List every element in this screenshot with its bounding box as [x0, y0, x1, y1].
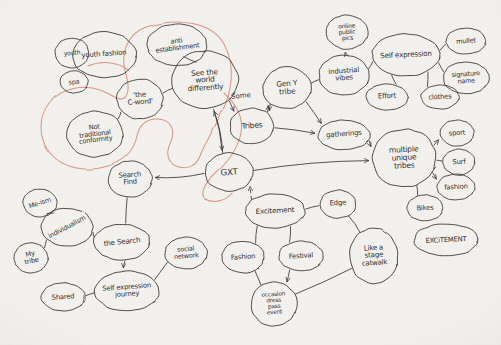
- edge-multiple_tribes-to-fashion_r: [433, 173, 437, 179]
- node-circle-individualism: [41, 208, 93, 246]
- dashed-edge-excitement_c-to-gxt: [250, 187, 251, 200]
- node-circle-social_network: [165, 237, 208, 269]
- node-circle-bikes: [407, 195, 443, 221]
- orange-small-arc: [88, 63, 128, 70]
- node-circle-search_find: [108, 161, 152, 197]
- node-circle-like_a_stage: [350, 228, 398, 284]
- edge-industrial_vibes-to-self_expression: [369, 62, 373, 69]
- edge-the_c_word-to-not_traditional: [118, 112, 121, 119]
- edge-multiple_tribes-to-sport: [434, 140, 439, 145]
- edge-gen_y_tribe-to-gatherings: [306, 102, 321, 123]
- edge-gen_y_tribe-to-industrial_vibes: [311, 80, 318, 83]
- node-circle-the_c_word: [116, 79, 163, 119]
- node-circle-effort: [366, 84, 408, 110]
- edge-anti_establishment-to-see_world: [184, 57, 197, 63]
- node-circle-fashion_r: [437, 174, 475, 200]
- edge-tribes-to-gen_y_tribe: [268, 106, 269, 112]
- ink-layer: [0, 0, 501, 345]
- edge-festival-to-occasion: [287, 270, 290, 282]
- node-circle-gatherings: [318, 120, 370, 150]
- node-circle-signature_name: [444, 62, 490, 94]
- edge-industrial_vibes-to-online_public_pics: [345, 53, 346, 55]
- node-circle-mullet: [446, 28, 486, 54]
- node-circle-see_world: [172, 51, 239, 109]
- node-circle-clothes: [421, 85, 460, 109]
- node-circle-sport: [440, 120, 474, 146]
- edge-individualism-to-the_search: [93, 232, 94, 237]
- orange-tail: [205, 193, 232, 201]
- node-circle-online_public_pics: [326, 15, 368, 49]
- edge-self_expression-to-clothes: [427, 72, 428, 87]
- node-circle-my_tribe: [14, 243, 48, 273]
- edge-edge-to-like_a_stage: [349, 216, 360, 232]
- node-circle-the_search: [93, 224, 149, 260]
- node-circle-gen_y_tribe: [263, 67, 312, 109]
- node-circle-self_expr_journey: [94, 271, 159, 311]
- node-circle-industrial_vibes: [319, 55, 369, 95]
- edge-self_expression-to-effort: [392, 75, 397, 84]
- node-circle-surf: [443, 149, 475, 175]
- edge-like_a_stage-to-occasion: [296, 269, 352, 295]
- edge-self_expression-to-signature_name: [439, 63, 444, 72]
- mindmap-canvas: youth fashionyouthspaanti establishmentS…: [0, 0, 501, 345]
- edge-gen_y_tribe-to-tribes: [269, 104, 270, 110]
- edge-gxt-to-search_find: [155, 173, 204, 177]
- edge-gatherings-to-multiple_tribes: [369, 141, 371, 147]
- edge-social_network-to-self_expr_journey: [155, 262, 168, 279]
- node-circle-occasion: [251, 282, 297, 326]
- node-circle-anti_establishment: [147, 24, 207, 66]
- edges-group: [45, 44, 446, 295]
- orange-highlight-group: [41, 22, 242, 201]
- node-circle-excitement_r: [414, 224, 478, 256]
- edge-excitement_c-to-edge: [306, 206, 319, 209]
- node-circle-excitement_c: [245, 194, 305, 228]
- node-circle-youth_fashion: [73, 31, 137, 77]
- edge-fashion_b-to-occasion: [255, 271, 261, 285]
- node-circle-spa: [60, 71, 88, 93]
- edge-multiple_tribes-to-surf: [437, 160, 442, 161]
- edge-the_c_word-to-see_world: [163, 88, 172, 93]
- edge-the_search-to-self_expr_journey: [123, 261, 125, 268]
- node-circle-not_traditional: [67, 111, 124, 157]
- edge-excitement_c-to-fashion_b: [256, 226, 258, 243]
- edge-tribes-to-gatherings: [275, 128, 315, 133]
- node-circle-edge: [320, 190, 355, 219]
- edge-excitement_c-to-festival: [290, 227, 291, 243]
- node-circle-shared: [41, 283, 85, 311]
- node-circle-self_expression: [372, 34, 440, 76]
- edge-gxt-to-multiple_tribes: [254, 161, 369, 171]
- node-circle-small_left: [55, 38, 89, 68]
- edge-search_find-to-the_search: [126, 198, 127, 223]
- node-circle-festival: [279, 241, 323, 271]
- edge-self_expression-to-mullet: [440, 44, 445, 50]
- node-circle-multiple_tribes: [372, 129, 436, 187]
- edge-multiple_tribes-to-bikes: [417, 186, 418, 195]
- nodes-group: [14, 15, 489, 326]
- edge-individualism-to-my_tribe: [45, 240, 47, 248]
- node-circle-tribes: [230, 108, 273, 144]
- node-circle-fashion_b: [222, 241, 264, 273]
- orange-loop-main: [41, 22, 231, 169]
- edge-shared-to-self_expr_journey: [86, 293, 94, 296]
